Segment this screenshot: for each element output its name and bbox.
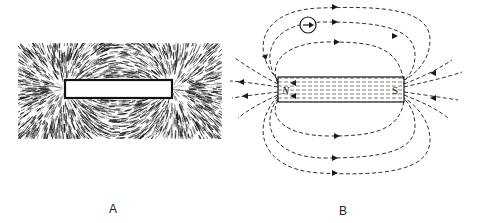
panel-b-label: B [339, 204, 347, 218]
iron-filings-image [18, 43, 222, 139]
bar-magnet [65, 80, 172, 98]
field-lines-svg: N S [230, 0, 477, 180]
compass-icon [300, 17, 316, 33]
bar-magnet: N S [278, 77, 404, 102]
panel-a-label: A [109, 202, 117, 216]
south-pole-label: S [392, 84, 398, 96]
iron-filings-svg [18, 43, 222, 139]
north-pole-label: N [281, 84, 290, 96]
field-lines-diagram: N S [230, 0, 477, 180]
